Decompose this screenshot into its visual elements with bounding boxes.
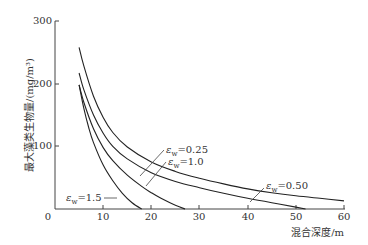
y-tick-300: 300 <box>33 15 52 26</box>
chart-canvas: 300 200 100 0 10 20 30 40 50 60 混合深度/m 最… <box>0 0 368 245</box>
x-tick-40: 40 <box>242 211 255 222</box>
y-axis-title: 最大藻类生物量/(mg/m³) <box>23 58 35 172</box>
curve-series-0 <box>79 47 344 201</box>
annotation-eps-0-50: εw=0.50 <box>266 180 308 194</box>
x-tick-60: 60 <box>338 211 351 222</box>
x-tick-10: 10 <box>97 211 110 222</box>
x-axis-title: 混合深度/m <box>291 226 344 238</box>
y-tick-200: 200 <box>33 78 52 89</box>
x-ticks: 0 10 20 30 40 50 60 <box>45 205 351 222</box>
y-tick-100: 100 <box>33 140 52 151</box>
x-tick-0: 0 <box>45 211 51 222</box>
x-tick-20: 20 <box>145 211 158 222</box>
x-tick-30: 30 <box>193 211 206 222</box>
annotation-eps-1-5: εw=1.5 <box>66 192 102 206</box>
x-tick-50: 50 <box>290 211 303 222</box>
annotation-eps-1-0: εw=1.0 <box>168 156 204 170</box>
